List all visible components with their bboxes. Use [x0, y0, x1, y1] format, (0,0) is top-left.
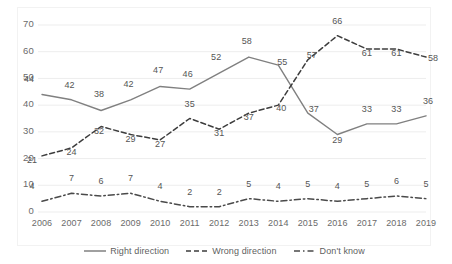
data-point-label: 6: [90, 176, 112, 186]
data-point-label: 52: [205, 52, 227, 62]
y-axis-tick-label: 0: [8, 205, 34, 216]
data-point-label: 29: [120, 134, 142, 144]
legend-item-2[interactable]: Don't know: [293, 246, 365, 256]
y-axis-tick-label: 70: [8, 18, 34, 29]
data-point-label: 32: [88, 126, 110, 136]
data-point-label: 61: [385, 48, 407, 58]
data-point-label: 7: [61, 173, 83, 183]
series-line-2: [42, 193, 426, 206]
legend-swatch-icon: [293, 246, 317, 256]
data-point-label: 33: [385, 104, 407, 114]
data-point-label: 37: [238, 112, 260, 122]
line-chart: 010203040506070 200620072008200920102011…: [0, 0, 452, 264]
y-axis-tick-label: 60: [8, 45, 34, 56]
data-point-label: 46: [177, 69, 199, 79]
data-point-label: 4: [267, 181, 289, 191]
chart-legend: Right directionWrong directionDon't know: [17, 241, 431, 261]
data-point-label: 35: [179, 99, 201, 109]
data-point-label: 7: [120, 173, 142, 183]
data-point-label: 2: [179, 187, 201, 197]
legend-item-1[interactable]: Wrong direction: [185, 246, 276, 256]
legend-item-0[interactable]: Right direction: [83, 246, 169, 256]
data-point-label: 5: [415, 179, 437, 189]
data-point-label: 40: [270, 103, 292, 113]
data-point-label: 5: [297, 179, 319, 189]
data-point-label: 57: [301, 50, 323, 60]
data-point-label: 55: [271, 57, 293, 67]
data-point-label: 37: [303, 104, 325, 114]
y-axis-tick-label: 30: [8, 125, 34, 136]
data-point-label: 2: [208, 187, 230, 197]
legend-swatch-icon: [185, 246, 209, 256]
x-axis-tick-label: 2019: [409, 218, 443, 228]
data-point-label: 58: [236, 36, 258, 46]
data-point-label: 47: [147, 65, 169, 75]
data-point-label: 21: [21, 155, 43, 165]
data-point-label: 58: [422, 53, 444, 63]
legend-label: Right direction: [110, 246, 169, 256]
data-point-label: 38: [88, 89, 110, 99]
data-point-label: 4: [149, 181, 171, 191]
data-point-label: 66: [326, 16, 348, 26]
data-point-label: 4: [21, 181, 43, 191]
data-point-label: 33: [356, 104, 378, 114]
data-point-label: 29: [326, 135, 348, 145]
data-point-label: 4: [326, 181, 348, 191]
data-point-label: 44: [18, 74, 40, 84]
data-point-label: 61: [356, 48, 378, 58]
data-point-label: 31: [208, 128, 230, 138]
legend-label: Wrong direction: [212, 246, 276, 256]
data-point-label: 42: [59, 80, 81, 90]
legend-swatch-icon: [83, 246, 107, 256]
data-point-label: 27: [149, 139, 171, 149]
data-point-label: 5: [356, 179, 378, 189]
data-point-label: 6: [385, 176, 407, 186]
data-point-label: 42: [118, 79, 140, 89]
data-point-label: 24: [61, 147, 83, 157]
legend-label: Don't know: [320, 246, 365, 256]
data-point-label: 36: [417, 96, 439, 106]
y-axis-tick-label: 40: [8, 98, 34, 109]
data-point-label: 5: [238, 179, 260, 189]
